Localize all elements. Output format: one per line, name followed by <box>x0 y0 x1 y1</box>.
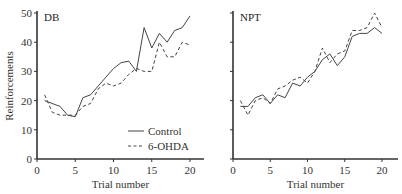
x-tick-label: 5 <box>268 164 274 176</box>
x-tick-label: 15 <box>339 164 351 176</box>
series-control-line <box>240 28 382 107</box>
panel-title: NPT <box>240 11 261 23</box>
y-tick-label: 30 <box>21 65 33 77</box>
x-tick-label: 10 <box>108 164 120 176</box>
legend: Control 6-OHDA <box>128 125 189 152</box>
x-tick-label: 20 <box>185 164 197 176</box>
series-control-line <box>45 16 190 117</box>
x-tick-label: 0 <box>230 164 236 176</box>
y-tick-label: 20 <box>21 95 33 107</box>
x-tick-label: 10 <box>302 164 314 176</box>
y-tick-label: 50 <box>21 7 33 19</box>
chart-figure: 0102030405005101520Trial numberDB 051015… <box>0 0 402 194</box>
y-tick-label: 40 <box>21 36 33 48</box>
panel-npt: 05101520Trial numberNPT <box>230 11 398 190</box>
y-tick-label: 0 <box>27 153 33 165</box>
y-axis-label: Reinforcements <box>3 51 15 121</box>
y-tick-label: 10 <box>21 124 33 136</box>
legend-control-label: Control <box>148 125 182 137</box>
x-tick-label: 15 <box>146 164 158 176</box>
x-axis-label: Trial number <box>92 178 150 190</box>
panel-title: DB <box>44 11 59 23</box>
x-tick-label: 5 <box>73 164 79 176</box>
x-tick-label: 0 <box>34 164 40 176</box>
series-6-ohda-line <box>240 13 382 115</box>
x-axis-label: Trial number <box>287 178 345 190</box>
series-6-ohda-line <box>45 42 190 115</box>
legend-6ohda-label: 6-OHDA <box>148 140 189 152</box>
panel-db: 0102030405005101520Trial numberDB <box>21 7 204 190</box>
x-tick-label: 20 <box>377 164 389 176</box>
